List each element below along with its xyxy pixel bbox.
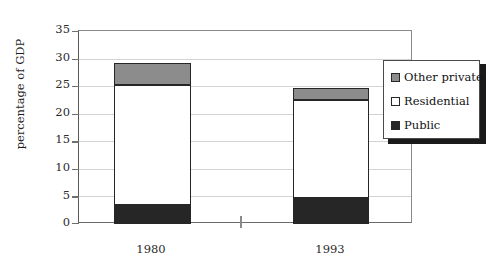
y-tick-label-5: 5	[63, 190, 70, 202]
gray-swatch-icon	[391, 73, 400, 82]
x-tick-label-1993: 1993	[290, 243, 370, 255]
y-tick-label-30: 30	[55, 52, 70, 64]
bar-1980-residential[interactable]	[114, 85, 191, 206]
chart-legend[interactable]: Other private Residential Public	[383, 60, 480, 139]
y-tick-35	[72, 31, 79, 32]
y-tick-5	[72, 196, 79, 197]
legend-label-public: Public	[404, 119, 440, 131]
y-axis-tick-labels: 35 30 25 20 15 10 5 0	[42, 30, 70, 223]
white-swatch-icon	[391, 97, 400, 106]
y-axis-title: percentage of GDP	[14, 14, 26, 174]
gridline-30	[79, 59, 411, 60]
bar-1980-other-private[interactable]	[114, 63, 191, 85]
y-tick-label-15: 15	[55, 134, 70, 146]
bar-1993-public[interactable]	[293, 198, 369, 224]
y-tick-label-25: 25	[55, 79, 70, 91]
black-swatch-icon	[391, 121, 400, 130]
x-tick-label-1980: 1980	[111, 243, 191, 255]
legend-label-residential: Residential	[404, 95, 469, 107]
bar-1993-residential[interactable]	[293, 100, 369, 198]
legend-item-other-private[interactable]: Other private	[391, 69, 483, 85]
y-tick-25	[72, 86, 79, 87]
legend-item-public[interactable]: Public	[391, 117, 440, 133]
legend-label-other-private: Other private	[404, 71, 483, 83]
stacked-bar-chart: 35 30 25 20 15 10 5 0 percentage of GDP	[0, 0, 494, 271]
y-tick-15	[72, 141, 79, 142]
y-tick-10	[72, 169, 79, 170]
bar-1980-public[interactable]	[114, 205, 191, 224]
bar-1993-other-private[interactable]	[293, 88, 369, 100]
plot-area	[78, 30, 412, 223]
y-tick-30	[72, 59, 79, 60]
y-tick-label-0: 0	[63, 217, 70, 229]
y-tick-20	[72, 114, 79, 115]
y-tick-label-10: 10	[55, 162, 70, 174]
y-tick-0	[72, 223, 79, 224]
legend-item-residential[interactable]: Residential	[391, 93, 469, 109]
y-tick-label-20: 20	[55, 107, 70, 119]
x-axis-mid-tick	[240, 216, 242, 228]
y-tick-label-35: 35	[55, 24, 70, 36]
